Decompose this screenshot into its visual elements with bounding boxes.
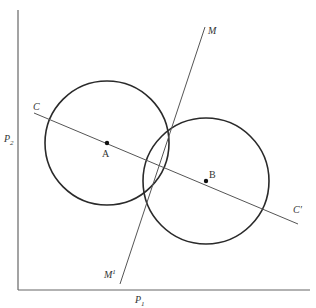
point-b (204, 179, 208, 183)
y-axis-label-sub: 2 (10, 139, 14, 147)
y-axis-label-main: P (3, 133, 10, 144)
line-c-c-prime (34, 113, 298, 224)
x-axis-label-main: P (134, 294, 141, 305)
point-a (105, 141, 109, 145)
x-axis-label: P1 (134, 294, 145, 308)
y-axis-label: P2 (3, 133, 14, 147)
line-c-end-label: C′ (293, 204, 303, 215)
line-m-m1 (120, 27, 205, 284)
diagram-canvas: A B C C′ M M1 P2 P1 (0, 0, 316, 308)
line-m-start-label: M (207, 25, 217, 36)
line-c-start-label: C (33, 101, 40, 112)
point-b-label: B (209, 169, 216, 180)
line-m-end-label-sup: 1 (112, 268, 116, 276)
x-axis-label-sub: 1 (141, 300, 145, 308)
point-a-label: A (102, 148, 110, 159)
line-m-end-label: M1 (103, 268, 116, 280)
